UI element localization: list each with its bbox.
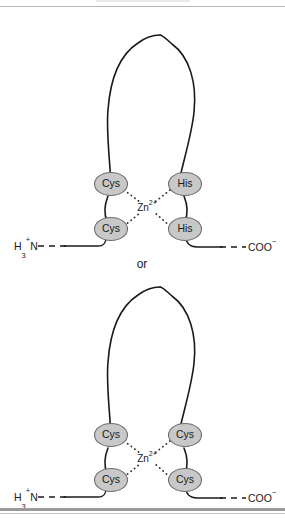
residue-label: Cys: [176, 473, 194, 485]
coord-bond-lower-right-2: [155, 464, 170, 477]
residue-lower-right-1: His: [169, 218, 202, 241]
top-rule: [0, 6, 285, 7]
metal-center-label-1: Zn2+: [137, 199, 157, 214]
metal-charge-1: 2+: [149, 199, 157, 206]
residue-label: Cys: [102, 177, 120, 189]
loop-right-limb-1: [160, 35, 195, 186]
zinc-finger-figure: Zn2+ Cys Cys His His H3+N COO− or: [0, 0, 285, 521]
bottom-rule-thin: [0, 513, 285, 514]
n-terminal-chain-1: [64, 237, 106, 246]
n-terminal-chain-2: [64, 488, 106, 497]
residue-upper-left-2: Cys: [95, 424, 128, 447]
coord-bond-lower-right-1: [155, 213, 170, 226]
metal-charge-2: 2+: [149, 450, 157, 457]
separator-or-label: or: [137, 257, 148, 271]
c-terminus-label-1: COO−: [248, 237, 277, 254]
residue-label: Cys: [102, 222, 120, 234]
figure-canvas: Zn2+ Cys Cys His His H3+N COO− or: [0, 0, 285, 521]
residue-label: Cys: [102, 428, 120, 440]
coord-bond-upper-right-1: [155, 190, 170, 202]
residue-upper-right-1: His: [169, 173, 202, 196]
motif-cys4: Zn2+ Cys Cys Cys Cys H3+N COO−: [14, 287, 277, 511]
cut-off-text-sliver: [96, 0, 190, 2]
residue-label: Cys: [176, 428, 194, 440]
coord-bond-upper-right-2: [155, 441, 170, 453]
loop-right-limb-2: [160, 287, 195, 437]
c-terminus-label-2: COO−: [248, 488, 277, 505]
residue-label: His: [177, 177, 192, 189]
n-terminus-label-2: H3+N: [14, 486, 38, 511]
residue-lower-left-1: Cys: [95, 218, 128, 241]
metal-center-label-2: Zn2+: [137, 450, 157, 465]
coord-bond-upper-left-1: [124, 190, 140, 202]
loop-left-limb-2: [107, 287, 160, 437]
page-crop-artifact: [0, 0, 285, 5]
n-terminus-label-1: H3+N: [14, 235, 38, 260]
residue-lower-right-2: Cys: [169, 469, 202, 492]
coord-bond-upper-left-2: [124, 441, 140, 453]
residue-lower-left-2: Cys: [95, 469, 128, 492]
motif-cys2his2: Zn2+ Cys Cys His His H3+N COO−: [14, 35, 277, 260]
loop-left-limb-1: [107, 35, 160, 186]
residue-label: Cys: [102, 473, 120, 485]
bottom-rule-thick: [0, 508, 285, 511]
residue-upper-left-1: Cys: [95, 173, 128, 196]
residue-upper-right-2: Cys: [169, 424, 202, 447]
residue-label: His: [177, 222, 192, 234]
